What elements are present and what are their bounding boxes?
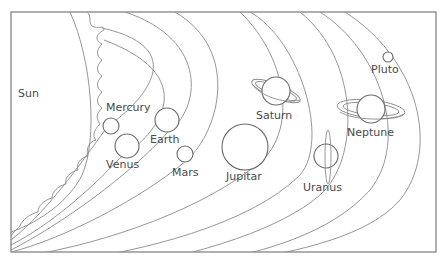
- planet-earth: [155, 108, 179, 132]
- solar-system-diagram: Sun Mercury Venus Earth Mars Jupitar Sat…: [0, 0, 446, 264]
- planet-mercury: [103, 118, 119, 134]
- label-neptune: Neptune: [347, 126, 394, 139]
- planet-jupiter: [222, 124, 268, 170]
- label-sun: Sun: [18, 87, 39, 100]
- label-jupiter: Jupitar: [225, 170, 262, 183]
- planet-mars: [177, 146, 193, 162]
- planet-venus: [115, 134, 139, 158]
- label-saturn: Saturn: [256, 109, 292, 122]
- planet-pluto: [383, 52, 393, 62]
- label-mercury: Mercury: [106, 101, 151, 114]
- label-mars: Mars: [172, 166, 199, 179]
- label-venus: Venus: [106, 158, 139, 171]
- label-earth: Earth: [150, 133, 180, 146]
- label-pluto: Pluto: [371, 63, 399, 76]
- label-uranus: Uranus: [303, 181, 342, 194]
